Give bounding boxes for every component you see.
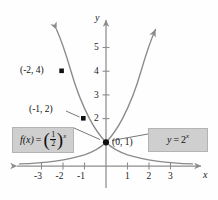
graph-canvas xyxy=(0,0,218,200)
callout-right-equals: = xyxy=(171,135,181,145)
point-label-neg1-2: (-1, 2) xyxy=(29,105,53,115)
callout-left-fx: f(x) xyxy=(20,135,34,145)
callout-right-exponent: x xyxy=(186,133,189,140)
callout-left-exponent: x xyxy=(63,133,66,140)
x-tick-label-neg3: -3 xyxy=(34,172,42,182)
point-label-neg2-4: (-2, 4) xyxy=(20,66,44,76)
callout-f-of-x: f(x) = ( 1 2 ) x xyxy=(12,127,74,153)
x-axis xyxy=(17,163,201,170)
x-tick-label-neg1: -1 xyxy=(77,172,85,182)
point-label-0-1: (0, 1) xyxy=(112,138,133,148)
y-tick-label-4: 4 xyxy=(94,67,99,77)
callout-left-equals: = xyxy=(34,135,44,145)
x-tick-label-3: 3 xyxy=(168,172,173,182)
marker-0-1 xyxy=(103,139,109,145)
fraction-one-half: 1 2 xyxy=(50,131,56,149)
x-tick-label-2: 2 xyxy=(147,172,152,182)
callout-y-equals-2x: y = 2 x xyxy=(148,128,208,152)
leader-lines xyxy=(66,111,148,141)
left-paren: ( xyxy=(43,132,49,147)
y-axis xyxy=(103,20,110,188)
exponential-functions-graph: y x -3 -2 -1 1 2 3 2 3 4 5 (-2, 4) (-1, … xyxy=(0,0,218,200)
y-tick-label-3: 3 xyxy=(94,91,99,101)
y-tick-label-2: 2 xyxy=(94,114,99,124)
x-tick-label-neg2: -2 xyxy=(56,172,64,182)
x-axis-label: x xyxy=(203,170,207,180)
marker-neg2-4 xyxy=(59,69,64,74)
callout-left-expression: f(x) = ( 1 2 ) x xyxy=(20,131,66,149)
fraction-numerator: 1 xyxy=(50,131,56,139)
fraction-denominator: 2 xyxy=(50,140,56,148)
y-axis-label: y xyxy=(95,13,99,23)
y-tick-label-5: 5 xyxy=(94,43,99,53)
x-tick-label-1: 1 xyxy=(125,172,130,182)
callout-right-expression: y = 2 x xyxy=(167,135,189,145)
marker-neg1-2 xyxy=(81,116,86,121)
